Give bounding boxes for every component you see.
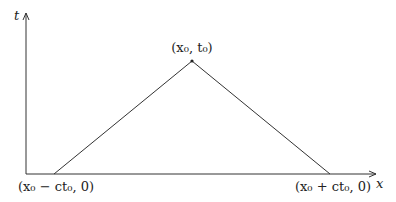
apex-label: (x₀, t₀)	[171, 40, 212, 55]
t-axis-label: t	[14, 8, 20, 23]
x-axis-label: x	[376, 176, 384, 191]
left-vertex-label: (x₀ − ct₀, 0)	[18, 179, 94, 194]
apex-point	[190, 59, 193, 62]
left-characteristic-line	[54, 61, 192, 174]
right-vertex-label: (x₀ + ct₀, 0)	[295, 179, 371, 194]
right-characteristic-line	[192, 61, 330, 174]
wave-domain-diagram: t x (x₀, t₀) (x₀ − ct₀, 0) (x₀ + ct₀, 0)	[0, 0, 396, 202]
